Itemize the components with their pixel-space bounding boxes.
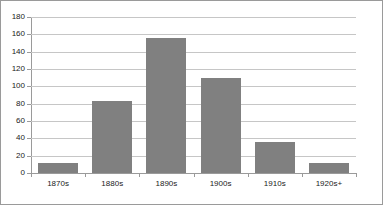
y-axis-tick-label: 60	[1, 117, 25, 125]
gridline	[31, 121, 356, 122]
bar	[146, 38, 186, 173]
x-axis-tick-label: 1900s	[194, 179, 248, 188]
y-axis-tick-label: 40	[1, 134, 25, 142]
gridline	[31, 104, 356, 105]
x-axis-tick-mark	[356, 173, 357, 177]
y-axis-tick-label: 140	[1, 48, 25, 56]
x-axis-tick-mark	[248, 173, 249, 177]
y-axis-tick-label: 20	[1, 152, 25, 160]
gridline	[31, 156, 356, 157]
y-axis-labels: 020406080100120140160180	[1, 1, 25, 204]
x-axis-tick-label: 1890s	[139, 179, 193, 188]
y-axis-tick-label: 0	[1, 169, 25, 177]
x-axis-tick-label: 1880s	[85, 179, 139, 188]
x-axis-tick-label: 1910s	[248, 179, 302, 188]
y-axis-tick-label: 100	[1, 82, 25, 90]
x-axis-tick-label: 1870s	[31, 179, 85, 188]
x-axis-tick-mark	[194, 173, 195, 177]
gridline	[31, 138, 356, 139]
bar	[38, 163, 78, 173]
y-axis-tick-label: 180	[1, 13, 25, 21]
y-axis-tick-label: 160	[1, 30, 25, 38]
plot-area	[31, 17, 356, 173]
bar	[201, 78, 241, 173]
bar	[92, 101, 132, 173]
x-axis-tick-mark	[85, 173, 86, 177]
x-axis-tick-mark	[31, 173, 32, 177]
chart-container: 020406080100120140160180 1870s1880s1890s…	[0, 0, 383, 205]
gridline	[31, 86, 356, 87]
gridline	[31, 52, 356, 53]
y-axis-tick-label: 120	[1, 65, 25, 73]
x-axis-tick-mark	[139, 173, 140, 177]
bar	[309, 163, 349, 173]
y-axis-tick-label: 80	[1, 100, 25, 108]
bar	[255, 142, 295, 173]
gridline	[31, 34, 356, 35]
x-axis-tick-label: 1920s+	[302, 179, 356, 188]
gridline	[31, 17, 356, 18]
x-axis-tick-mark	[302, 173, 303, 177]
gridline	[31, 69, 356, 70]
